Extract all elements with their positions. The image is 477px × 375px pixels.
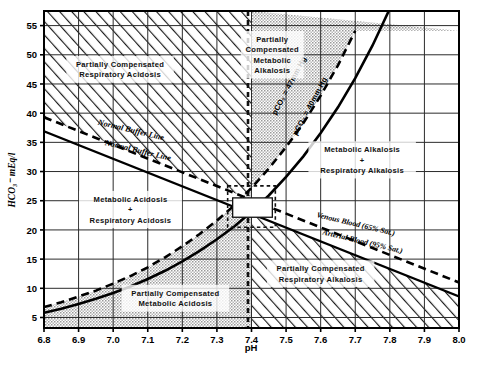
y-tick-label: 10 — [26, 283, 37, 294]
svg-text:Respiratory Alkalosis: Respiratory Alkalosis — [320, 166, 404, 175]
svg-text:+: + — [128, 205, 133, 214]
x-tick-label: 7.6 — [314, 334, 327, 345]
x-tick-label: 7.7 — [349, 334, 362, 345]
x-tick-label: 7.5 — [279, 334, 293, 345]
svg-text:Respiratory Acidosis: Respiratory Acidosis — [79, 70, 161, 79]
svg-text:Partially: Partially — [256, 35, 289, 44]
y-tick-label: 55 — [26, 20, 37, 31]
svg-text:Alkalosis: Alkalosis — [254, 66, 290, 75]
y-tick-label: 30 — [26, 166, 37, 177]
region-label-partially-compensated-respiratory-alkalosis: Partially CompensatedRespiratory Alkalos… — [267, 260, 374, 287]
y-tick-label: 50 — [26, 49, 37, 60]
svg-text:Metabolic: Metabolic — [253, 56, 291, 65]
y-tick-label: 45 — [26, 79, 37, 90]
svg-text:Metabolic Acidosis: Metabolic Acidosis — [94, 195, 168, 204]
normal-range-white-box — [233, 198, 273, 217]
svg-text:Metabolic Acidosis: Metabolic Acidosis — [138, 299, 212, 308]
region-label-metabolic-alkalosis-plus-respiratory-alkalosis: Metabolic Alkalosis+Respiratory Alkalosi… — [308, 141, 415, 178]
x-tick-label: 6.8 — [37, 334, 50, 345]
x-tick-label: 7.0 — [107, 334, 120, 345]
region-label-partially-compensated-metabolic-alkalosis: PartiallyCompensatedMetabolicAlkalosis — [241, 31, 304, 79]
svg-text:Compensated: Compensated — [245, 45, 299, 54]
x-tick-label: 8.0 — [452, 334, 465, 345]
x-tick-label: 7.1 — [141, 334, 155, 345]
region-label-partially-compensated-metabolic-acidosis: Partially CompensatedMetabolic Acidosis — [122, 285, 229, 312]
acid-base-diagram: pCO₂ = 47mm HgpCO₂ = 40mm HgNormal Buffe… — [0, 0, 477, 375]
svg-text:Partially Compensated: Partially Compensated — [131, 289, 219, 298]
x-tick-label: 7.3 — [210, 334, 223, 345]
x-axis-title: pH — [245, 342, 258, 353]
svg-text:Respiratory Acidosis: Respiratory Acidosis — [90, 216, 172, 225]
svg-text:+: + — [360, 156, 365, 165]
x-tick-label: 7.8 — [383, 334, 396, 345]
svg-text:Partially Compensated: Partially Compensated — [76, 60, 164, 69]
y-tick-label: 5 — [32, 312, 38, 323]
acid-base-chart-svg: pCO₂ = 47mm HgpCO₂ = 40mm HgNormal Buffe… — [0, 0, 477, 375]
y-tick-label: 15 — [26, 254, 37, 265]
svg-text:Metabolic Alkalosis: Metabolic Alkalosis — [324, 145, 400, 154]
y-tick-label: 35 — [26, 137, 37, 148]
region-label-partially-compensated-respiratory-acidosis: Partially CompensatedRespiratory Acidosi… — [66, 56, 173, 83]
x-tick-label: 7.9 — [418, 334, 431, 345]
svg-text:Partially Compensated: Partially Compensated — [277, 264, 365, 273]
region-label-metabolic-acidosis-plus-respiratory-acidosis: Metabolic Acidosis+Respiratory Acidosis — [79, 191, 182, 228]
svg-text:Respiratory Alkalosis: Respiratory Alkalosis — [279, 275, 363, 284]
x-tick-label: 6.9 — [72, 334, 85, 345]
y-tick-label: 20 — [26, 225, 37, 236]
y-axis-title: HCO₃⁻ mEq/l — [7, 152, 17, 208]
x-tick-label: 7.2 — [176, 334, 189, 345]
y-tick-label: 40 — [26, 108, 37, 119]
y-tick-label: 25 — [26, 195, 37, 206]
